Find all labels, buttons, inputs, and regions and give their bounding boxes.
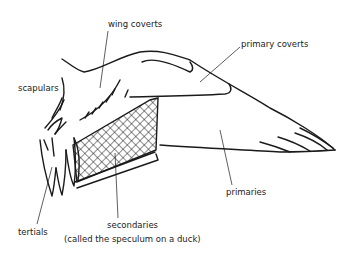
leader-wing-coverts <box>100 31 108 88</box>
label-primary-coverts: primary coverts <box>241 40 308 49</box>
label-speculum-note: (called the speculum on a duck) <box>64 235 201 244</box>
wing-diagram: wing coverts primary coverts scapulars p… <box>0 0 342 256</box>
label-scapulars: scapulars <box>18 84 59 93</box>
leader-tertials <box>37 167 52 224</box>
label-secondaries: secondaries <box>107 221 158 230</box>
leader-primary-coverts <box>200 47 240 82</box>
label-primaries: primaries <box>226 188 266 197</box>
label-wing-coverts: wing coverts <box>108 20 162 29</box>
leader-primaries <box>220 130 232 185</box>
label-tertials: tertials <box>18 228 48 237</box>
